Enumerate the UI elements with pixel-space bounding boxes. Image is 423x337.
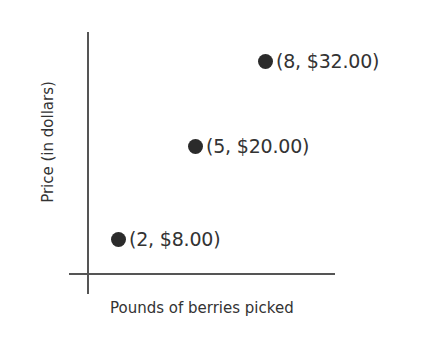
- data-point: (5, $20.00): [188, 135, 309, 157]
- x-axis-label: Pounds of berries picked: [110, 299, 294, 317]
- data-point: (2, $8.00): [111, 228, 220, 250]
- y-axis-line: [87, 32, 89, 294]
- point-label: (8, $32.00): [276, 50, 379, 72]
- x-axis-line: [69, 273, 335, 275]
- point-label: (2, $8.00): [129, 228, 220, 250]
- y-axis-label: Price (in dollars): [39, 81, 57, 203]
- point-label: (5, $20.00): [206, 135, 309, 157]
- data-point: (8, $32.00): [258, 50, 379, 72]
- point-marker-icon: [188, 139, 203, 154]
- point-marker-icon: [111, 232, 126, 247]
- point-marker-icon: [258, 54, 273, 69]
